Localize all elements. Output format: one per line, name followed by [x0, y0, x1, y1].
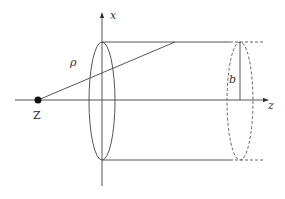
rho-label: ρ — [69, 56, 77, 69]
cylinder-diagram: x z Z ρ b — [0, 0, 285, 199]
point-z — [35, 97, 42, 104]
rho-line — [38, 42, 175, 100]
radius-b-label: b — [229, 73, 236, 86]
x-axis-label: x — [110, 9, 117, 22]
z-axis-label: z — [267, 99, 274, 112]
point-z-label: Z — [33, 109, 41, 122]
